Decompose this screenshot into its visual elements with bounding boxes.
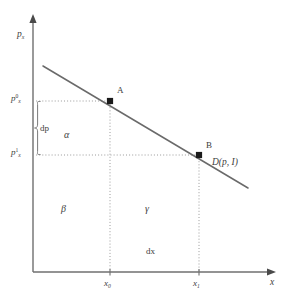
dp-annotation-label: dp	[40, 124, 49, 133]
y-tick-label-p0: p0x	[11, 94, 21, 103]
y-tick-label-p1: p1x	[11, 148, 21, 157]
data-point-markers	[107, 98, 202, 158]
point-label-B: B	[206, 141, 212, 150]
x-axis-arrowhead	[267, 268, 276, 275]
demand-curve-line	[43, 66, 248, 188]
point-marker-B	[196, 152, 202, 158]
demand-curve-label: D(p, I)	[212, 158, 238, 168]
x-tick-label-x1: x1	[193, 279, 200, 288]
dx-annotation-label: dx	[146, 247, 155, 256]
demand-curve-figure: px x p0x p1x x0 x1 A B D(p, I) dp dx α β…	[0, 0, 292, 301]
region-label-beta: β	[61, 204, 66, 214]
y-axis-label: px	[17, 30, 24, 40]
guide-lines-group	[33, 101, 199, 272]
region-label-gamma: γ	[145, 204, 149, 214]
axes-group	[29, 14, 276, 276]
x-axis-label: x	[270, 278, 274, 288]
point-marker-A	[107, 98, 113, 104]
point-label-A: A	[117, 86, 124, 95]
region-label-alpha: α	[64, 130, 69, 140]
y-axis-arrowhead	[29, 14, 36, 23]
x-tick-label-x0: x0	[104, 279, 111, 288]
